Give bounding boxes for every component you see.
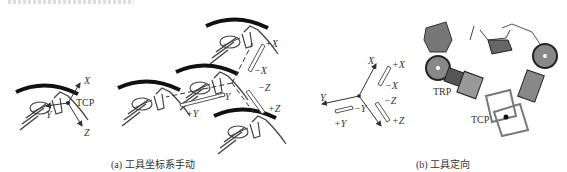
tool-jog-diagram: +Y −Y +X −X −Z +Z	[118, 19, 286, 154]
axis-x-label: X	[367, 55, 375, 66]
figure-canvas: X Y Z TCP +Y −Y +X −X −Z +Z X Y +X −X −	[0, 0, 567, 172]
minus-x-label: −X	[385, 80, 399, 91]
plus-y-label: +Y	[186, 108, 200, 119]
tcp-label: TCP	[471, 114, 490, 125]
axis-x-label: X	[83, 75, 91, 86]
caption-panel-b: (b) 工具定向	[416, 156, 470, 171]
axis-z-label: Z	[84, 127, 90, 138]
plus-z-label: +Z	[392, 115, 405, 126]
torch-with-tcp-axes: X Y Z TCP	[16, 75, 95, 138]
plus-x-label: +X	[392, 59, 406, 70]
axis-y-label: Y	[320, 92, 327, 103]
caption-panel-a: (a) 工具坐标系手动	[111, 156, 195, 171]
plus-y-label: +Y	[334, 118, 348, 129]
minus-y-label: −Y	[354, 103, 368, 114]
minus-x-label: −X	[254, 65, 268, 76]
plus-x-label: +X	[265, 38, 279, 49]
minus-y-label: −Y	[218, 91, 232, 102]
plus-z-label: +Z	[268, 103, 281, 114]
trp-label: TRP	[433, 86, 452, 97]
minus-z-label: −Z	[384, 95, 397, 106]
coordinate-triad: X Y +X −X −Y +Y −Z +Z	[320, 55, 406, 129]
tcp-label: TCP	[76, 97, 95, 108]
axis-y-label: Y	[46, 109, 53, 120]
minus-z-label: −Z	[258, 82, 271, 93]
robot-tool-orientation-image: TRP TCP	[424, 22, 557, 136]
